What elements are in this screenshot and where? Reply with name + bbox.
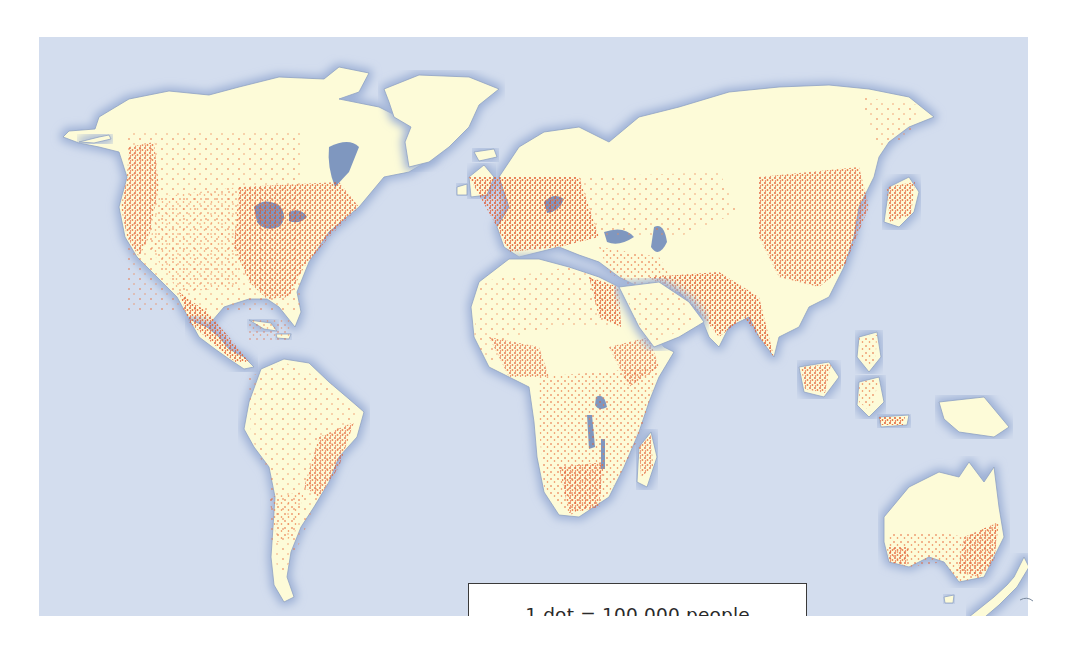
page-edge-mark <box>1019 594 1039 604</box>
map-legend: 1 dot = 100 000 people <box>468 583 807 616</box>
legend-text: 1 dot = 100 000 people <box>525 604 750 616</box>
world-map <box>39 37 1028 616</box>
south-america <box>244 359 364 602</box>
caribbean <box>249 320 291 340</box>
north-america <box>63 67 434 369</box>
australia <box>884 462 1028 616</box>
southeast-asia <box>799 362 1009 437</box>
world-map-panel: 1 dot = 100 000 people <box>39 37 1028 616</box>
